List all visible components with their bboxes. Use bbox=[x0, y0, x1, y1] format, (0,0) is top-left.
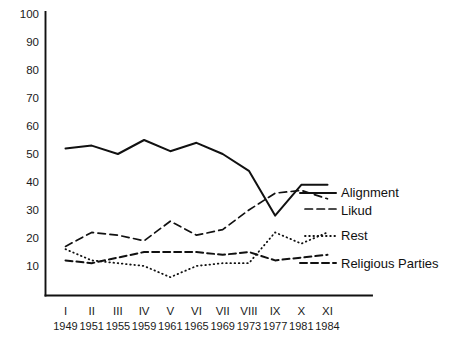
series-line-alignment bbox=[66, 140, 328, 216]
legend-label-religious-parties: Religious Parties bbox=[341, 256, 439, 271]
x-tick-roman: III bbox=[113, 305, 123, 317]
x-tick-roman: VIII bbox=[240, 305, 257, 317]
y-tick-label: 80 bbox=[26, 64, 39, 76]
x-tick-year: 1973 bbox=[237, 320, 261, 332]
x-tick-year: 1959 bbox=[132, 320, 156, 332]
series-line-rest bbox=[66, 232, 328, 277]
x-tick-roman: X bbox=[297, 305, 305, 317]
x-tick-roman: I bbox=[64, 305, 67, 317]
chart-container: 102030405060708090100 IIIIIIIVVVIVIIVIII… bbox=[0, 0, 453, 345]
x-tick-year: 1955 bbox=[106, 320, 130, 332]
y-tick-label: 50 bbox=[26, 148, 39, 160]
x-tick-year: 1951 bbox=[79, 320, 103, 332]
x-tick-roman: VII bbox=[216, 305, 230, 317]
x-tick-roman: IV bbox=[139, 305, 150, 317]
y-tick-label: 30 bbox=[26, 204, 39, 216]
y-tick-label: 90 bbox=[26, 36, 39, 48]
y-tick-label: 20 bbox=[26, 232, 39, 244]
x-tick-romans: IIIIIIIVVVIVIIVIIIIXXXI bbox=[64, 305, 333, 317]
line-chart: 102030405060708090100 IIIIIIIVVVIVIIVIII… bbox=[0, 0, 453, 345]
x-tick-year: 1965 bbox=[184, 320, 208, 332]
y-tick-label: 10 bbox=[26, 260, 39, 272]
legend-label-likud: Likud bbox=[341, 203, 372, 218]
chart-legend: AlignmentLikudRestReligious Parties bbox=[300, 185, 439, 271]
x-tick-year: 1969 bbox=[210, 320, 234, 332]
x-tick-roman: II bbox=[89, 305, 95, 317]
x-tick-year: 1961 bbox=[158, 320, 182, 332]
x-tick-roman: VI bbox=[191, 305, 202, 317]
x-tick-year: 1981 bbox=[289, 320, 313, 332]
x-tick-roman: IX bbox=[270, 305, 281, 317]
y-tick-labels: 102030405060708090100 bbox=[20, 8, 39, 272]
y-tick-label: 40 bbox=[26, 176, 39, 188]
x-tick-year: 1984 bbox=[315, 320, 339, 332]
x-tick-year: 1949 bbox=[53, 320, 77, 332]
legend-label-rest: Rest bbox=[341, 228, 368, 243]
x-tick-year: 1977 bbox=[263, 320, 287, 332]
y-tick-label: 100 bbox=[20, 8, 39, 20]
y-tick-label: 60 bbox=[26, 120, 39, 132]
y-tick-label: 70 bbox=[26, 92, 39, 104]
x-tick-roman: XI bbox=[322, 305, 333, 317]
legend-label-alignment: Alignment bbox=[341, 185, 399, 200]
x-tick-roman: V bbox=[166, 305, 174, 317]
x-tick-years: 1949195119551959196119651969197319771981… bbox=[53, 320, 339, 332]
data-series-layer bbox=[66, 140, 328, 277]
